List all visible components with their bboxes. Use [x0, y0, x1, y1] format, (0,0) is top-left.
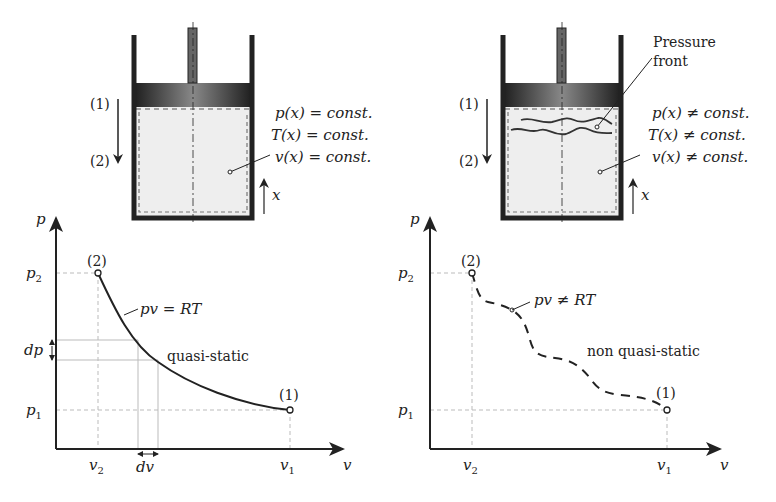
tick-p1: p1 [398, 401, 414, 421]
pressure-front-label: Pressure [653, 34, 716, 50]
point-label-2: (2) [87, 253, 107, 269]
left-cylinder [134, 22, 252, 225]
v-axis-label: v [720, 456, 729, 474]
curve-equation-label: pv = RT [140, 300, 202, 318]
right-properties: p(x) ≠ const. T(x) ≠ const. v(x) ≠ const… [648, 104, 749, 166]
tick-p2: p2 [398, 264, 414, 284]
right-pv-plot: p v p2 p1 v2 v1 (2) (1) pv ≠ RT non quas… [398, 210, 729, 476]
p-axis-label: p [36, 210, 46, 228]
point-label-1: (1) [279, 387, 299, 403]
tick-dv: dv [136, 458, 155, 476]
right-cylinder [503, 22, 621, 225]
p-axis-label: p [410, 210, 420, 228]
probe-point [595, 125, 599, 129]
v-axis-label: v [343, 456, 352, 474]
state-point-1 [664, 407, 670, 413]
state-point-2 [469, 270, 475, 276]
tick-v2: v2 [89, 456, 104, 476]
state-label-1: (1) [90, 96, 110, 112]
isotherm-curve [98, 273, 290, 410]
state-label-2: (2) [90, 153, 110, 169]
probe-point [598, 170, 602, 174]
svg-text:p(x) ≠ const.: p(x) ≠ const. [652, 104, 749, 122]
diagram-canvas: (1) (2) p(x) = const. T(x) = const. v(x)… [0, 0, 776, 502]
piston-rod [188, 28, 197, 83]
process-label: non quasi-static [587, 343, 700, 359]
tick-dp: dp [24, 341, 44, 359]
state-point-2 [95, 270, 101, 276]
svg-text:p(x) = const.: p(x) = const. [275, 104, 372, 122]
svg-text:T(x) ≠ const.: T(x) ≠ const. [648, 126, 746, 144]
x-axis-label: x [272, 186, 281, 204]
tick-v1: v1 [657, 456, 672, 476]
point-label-1: (1) [656, 385, 676, 401]
svg-text:v(x) ≠ const.: v(x) ≠ const. [652, 148, 748, 166]
tick-p2: p2 [26, 264, 42, 284]
tick-p1: p1 [26, 401, 42, 421]
svg-text:v(x) = const.: v(x) = const. [275, 148, 371, 166]
state-label-2: (2) [459, 153, 479, 169]
process-label: quasi-static [167, 348, 249, 364]
left-properties: p(x) = const. T(x) = const. v(x) = const… [271, 104, 372, 166]
probe-point [228, 170, 232, 174]
state-label-1: (1) [459, 96, 479, 112]
pressure-front-label: front [653, 53, 688, 69]
tick-v1: v1 [280, 456, 295, 476]
left-pv-plot: p v p2 p1 dp v2 v1 dv (2) (1) pv = RT qu… [24, 210, 352, 476]
piston-rod [557, 28, 566, 83]
tick-v2: v2 [463, 456, 478, 476]
svg-text:T(x) = const.: T(x) = const. [271, 126, 369, 144]
curve-equation-label: pv ≠ RT [534, 291, 596, 309]
point-label-2: (2) [461, 253, 481, 269]
x-axis-label: x [641, 186, 650, 204]
state-point-1 [287, 407, 293, 413]
right-process-arrow: (1) (2) [459, 96, 487, 169]
left-process-arrow: (1) (2) [90, 96, 118, 169]
